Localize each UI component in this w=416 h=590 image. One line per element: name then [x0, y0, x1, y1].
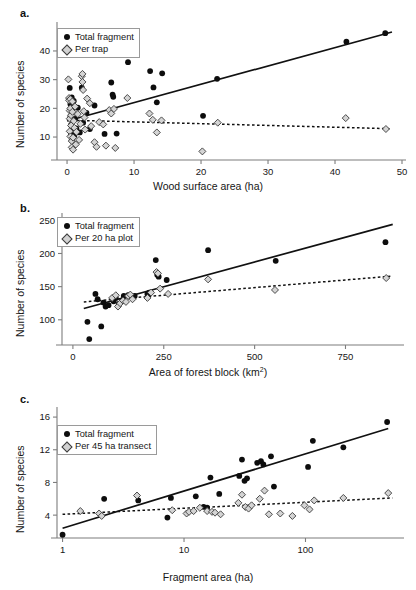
data-point-total-fragment	[168, 495, 174, 501]
gray-diamond-icon	[62, 234, 71, 243]
data-point-per-unit	[153, 129, 160, 136]
x-tick-label: 30	[263, 166, 274, 177]
data-point-per-unit	[146, 110, 153, 117]
y-tick-label: 200	[39, 248, 55, 259]
figure-species-area-panels: a. Number of species 0102030405010203040…	[0, 0, 416, 590]
filled-circle-icon	[62, 222, 71, 231]
data-point-total-fragment	[205, 247, 211, 253]
gray-diamond-icon	[62, 45, 71, 54]
data-point-per-unit	[65, 76, 72, 83]
data-point-total-fragment	[305, 464, 311, 470]
panel-a-xlabel: Wood surface area (ha)	[0, 180, 416, 192]
panel-c-xlabel: Fragment area (ha)	[0, 571, 416, 583]
panel-b-xlabel-text: Area of forest block (km2)	[149, 366, 267, 378]
data-point-total-fragment	[95, 296, 101, 302]
data-point-total-fragment	[114, 131, 120, 137]
data-point-per-unit	[256, 495, 263, 502]
filled-circle-icon	[62, 33, 71, 42]
legend-item-per-trap: Per trap	[62, 43, 134, 55]
panel-c-legend: Total fragment Per 45 ha transect	[57, 425, 157, 455]
data-point-total-fragment	[208, 475, 214, 481]
legend-item-per-45-ha-transect: Per 45 ha transect	[62, 440, 151, 452]
y-tick-label: 16	[39, 411, 50, 422]
x-tick-label: 100	[298, 544, 314, 555]
data-point-total-fragment	[340, 444, 346, 450]
filled-circle-icon	[62, 430, 71, 439]
legend-label: Total fragment	[75, 428, 134, 440]
x-tick-label: 500	[247, 351, 263, 362]
data-point-total-fragment	[101, 496, 107, 502]
data-point-per-unit	[199, 148, 206, 155]
data-point-total-fragment	[236, 473, 242, 479]
data-point-total-fragment	[67, 85, 73, 91]
y-tick-label: 10	[39, 131, 50, 142]
data-point-per-unit	[261, 487, 268, 494]
data-point-per-unit	[301, 502, 308, 509]
data-point-total-fragment	[164, 277, 170, 283]
legend-label: Per 45 ha transect	[75, 440, 151, 452]
data-point-per-unit	[149, 116, 156, 123]
y-tick-label: 4	[45, 510, 50, 521]
data-point-per-unit	[238, 491, 245, 498]
data-point-total-fragment	[384, 419, 390, 425]
x-tick-label: 0	[64, 166, 69, 177]
data-point-total-fragment	[165, 515, 171, 521]
y-tick-label: 8	[45, 477, 50, 488]
data-point-per-unit	[311, 497, 318, 504]
data-point-per-unit	[205, 276, 212, 283]
y-tick-label: 20	[39, 103, 50, 114]
data-point-total-fragment	[216, 491, 222, 497]
data-point-per-unit	[277, 510, 284, 517]
data-point-per-unit	[102, 142, 109, 149]
data-point-per-unit	[235, 499, 242, 506]
dashed-trendline	[67, 120, 392, 129]
data-point-per-unit	[165, 290, 172, 297]
data-point-total-fragment	[60, 532, 66, 538]
data-point-total-fragment	[86, 336, 92, 342]
data-point-total-fragment	[239, 457, 245, 463]
x-tick-label: 250	[156, 351, 172, 362]
data-point-per-unit	[306, 506, 313, 513]
legend-label: Per 20 ha plot	[75, 232, 133, 244]
data-point-total-fragment	[151, 85, 157, 91]
y-tick-label: 30	[39, 74, 50, 85]
y-tick-label: 150	[39, 281, 55, 292]
data-point-per-unit	[382, 126, 389, 133]
panel-b-xlabel: Area of forest block (km2)	[0, 365, 416, 378]
data-point-total-fragment	[153, 257, 159, 263]
x-tick-label: 0	[70, 351, 75, 362]
data-point-total-fragment	[268, 453, 274, 459]
data-point-total-fragment	[159, 70, 165, 76]
data-point-total-fragment	[273, 258, 279, 264]
gray-diamond-icon	[62, 442, 71, 451]
data-point-total-fragment	[343, 39, 349, 45]
data-point-total-fragment	[193, 493, 199, 499]
x-tick-label: 10	[179, 544, 190, 555]
data-point-total-fragment	[106, 302, 112, 308]
y-tick-label: 250	[39, 215, 55, 226]
x-tick-label: 1	[60, 544, 65, 555]
legend-item-total-fragment: Total fragment	[62, 31, 134, 43]
x-tick-label: 40	[330, 166, 341, 177]
data-point-total-fragment	[244, 475, 250, 481]
legend-label: Total fragment	[75, 31, 134, 43]
data-point-total-fragment	[125, 59, 131, 65]
data-point-total-fragment	[382, 30, 388, 36]
data-point-per-unit	[112, 144, 119, 151]
data-point-per-unit	[124, 95, 131, 102]
data-point-total-fragment	[200, 113, 206, 119]
data-point-total-fragment	[102, 131, 108, 137]
legend-label: Per trap	[75, 43, 108, 55]
x-tick-label: 50	[397, 166, 408, 177]
panel-c: c. Number of species 110100481216 Total …	[0, 383, 416, 590]
data-point-total-fragment	[93, 291, 99, 297]
panel-b-legend: Total fragment Per 20 ha plot	[57, 217, 140, 247]
panel-a: a. Number of species 0102030405010203040…	[0, 0, 416, 197]
y-tick-label: 12	[39, 444, 50, 455]
data-point-per-unit	[214, 119, 221, 126]
data-point-total-fragment	[271, 484, 277, 490]
data-point-per-unit	[385, 490, 392, 497]
data-point-per-unit	[271, 286, 278, 293]
data-point-total-fragment	[383, 239, 389, 245]
panel-a-legend: Total fragment Per trap	[57, 28, 140, 58]
